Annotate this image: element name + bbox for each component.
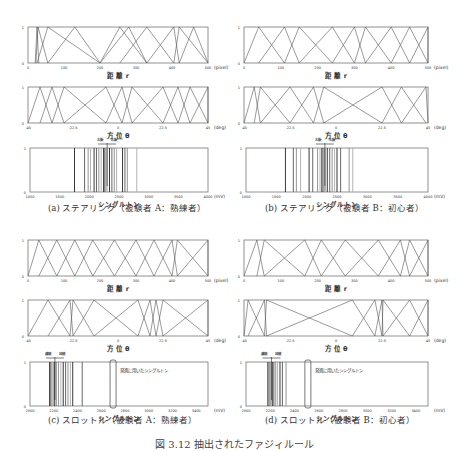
x-tick-label: 0	[27, 279, 29, 283]
panel-caption-a: (a) ステアリング（被験者 A：熟練者）	[48, 201, 206, 213]
chart-a-distance: 010100200300400500(pixel)距 離 r	[22, 26, 229, 80]
x-tick-label: 45	[426, 339, 430, 343]
x-tick-label: 1000	[26, 195, 35, 199]
axis-unit-label: (deg)	[434, 125, 446, 130]
annotation-right-label: 右旋	[328, 137, 336, 142]
membership-function	[259, 27, 299, 63]
membership-function	[244, 300, 264, 336]
membership-function	[70, 300, 94, 336]
axis-unit-label: (deg)	[434, 338, 446, 343]
x-tick-label: 200	[314, 279, 321, 283]
plot-frame	[30, 362, 208, 406]
membership-function	[174, 27, 208, 63]
x-tick-label: -22.5	[68, 126, 77, 130]
axis-title: 距 離 r	[107, 71, 130, 80]
x-tick-label: 300	[133, 279, 140, 283]
axis-unit-label: (deg)	[214, 125, 226, 130]
x-tick-label: 0	[335, 126, 337, 130]
x-tick-label: -45	[241, 339, 247, 343]
axis-title: 方 位 θ	[325, 344, 349, 353]
membership-function	[154, 240, 177, 276]
membership-function	[57, 240, 93, 276]
y-tick-label: 1	[22, 26, 24, 30]
panel-caption-c: (c) スロットル（被験者 A：熟練者）	[48, 413, 197, 425]
membership-function	[391, 27, 428, 63]
x-tick-label: 400	[169, 279, 176, 283]
membership-function	[244, 87, 260, 123]
y-tick-label: 1	[238, 299, 240, 303]
x-tick-label: 45	[206, 126, 210, 130]
x-tick-label: 22.5	[378, 126, 386, 130]
membership-function	[156, 300, 208, 336]
y-tick-label: 0	[22, 62, 24, 66]
highlight-box	[305, 360, 311, 408]
y-tick-label: 1	[22, 239, 24, 243]
chart-b-distance: 010100200300400500(pixel)距 離 r	[238, 26, 449, 80]
chart-d-direction: 01-45-22.5022.545(deg)方 位 θ	[238, 299, 446, 353]
x-tick-label: 300	[351, 66, 358, 70]
axis-title: 距 離 r	[325, 284, 348, 293]
plot-frame	[28, 240, 208, 276]
x-tick-label: 100	[61, 279, 68, 283]
x-tick-label: 500	[205, 66, 212, 70]
chart-a-singleton: 011000150020002500300035004000(mV)シングルトン…	[24, 137, 225, 209]
axis-unit-label: (pixel)	[434, 65, 448, 70]
annotation-left-label: 左旋	[96, 137, 104, 142]
x-tick-label: 100	[277, 66, 284, 70]
membership-function	[48, 300, 73, 336]
axis-unit-label: (mV)	[214, 408, 225, 413]
membership-function	[52, 87, 106, 123]
x-tick-label: 400	[388, 279, 395, 283]
axis-unit-label: (pixel)	[214, 278, 228, 283]
x-tick-label: 500	[425, 66, 432, 70]
x-tick-label: 100	[277, 279, 284, 283]
plot-frame	[30, 148, 208, 192]
x-tick-label: 2500	[333, 195, 342, 199]
membership-function	[100, 27, 147, 63]
x-tick-label: 3000	[144, 195, 153, 199]
x-tick-label: 500	[205, 279, 212, 283]
highlight-label: 発進に用いたシングルトン	[120, 367, 169, 374]
membership-function	[299, 27, 354, 63]
x-tick-label: 500	[425, 279, 432, 283]
membership-function	[132, 87, 178, 123]
x-tick-label: 0	[335, 339, 337, 343]
y-tick-label: 0	[22, 335, 24, 339]
x-tick-label: 400	[388, 66, 395, 70]
chart-a-direction: 01-45-22.5022.545(deg)方 位 θ	[22, 86, 226, 140]
x-tick-label: 4000	[204, 195, 213, 199]
y-tick-label: 0	[238, 62, 240, 66]
y-tick-label: 0	[238, 275, 240, 279]
x-tick-label: 0	[243, 66, 245, 70]
x-tick-label: 3500	[393, 195, 402, 199]
x-tick-label: 45	[206, 339, 210, 343]
x-tick-label: 22.5	[159, 339, 167, 343]
membership-function	[94, 300, 150, 336]
x-tick-label: 4000	[424, 195, 433, 199]
y-tick-label: 1	[238, 26, 240, 30]
axis-unit-label: (mV)	[434, 408, 445, 413]
x-tick-label: -45	[25, 126, 31, 130]
chart-c-distance: 010100200300400500(pixel)距 離 r	[22, 239, 229, 293]
y-tick-label: 1	[22, 299, 24, 303]
x-tick-label: 400	[169, 66, 176, 70]
x-tick-label: 22.5	[159, 126, 167, 130]
membership-function	[352, 300, 382, 336]
y-tick-label: 1	[240, 361, 242, 365]
membership-function	[122, 87, 163, 123]
membership-function	[244, 27, 284, 63]
axis-title: 方 位 θ	[107, 131, 131, 140]
membership-function	[382, 87, 426, 123]
x-tick-label: 0	[243, 279, 245, 283]
membership-function	[257, 240, 305, 276]
y-tick-label: 1	[24, 361, 26, 365]
chart-d-distance: 010100200300400500(pixel)距 離 r	[238, 239, 449, 293]
x-tick-label: 2000	[26, 409, 35, 413]
membership-function	[260, 87, 313, 123]
membership-function	[266, 300, 374, 336]
membership-function	[106, 87, 132, 123]
plot-frame	[244, 300, 428, 336]
membership-function	[400, 240, 428, 276]
membership-function	[75, 240, 115, 276]
